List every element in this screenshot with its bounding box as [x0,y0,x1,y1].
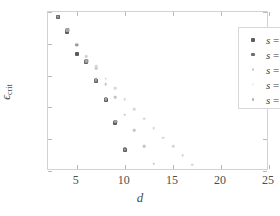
y-tick [48,44,52,45]
x-tick-top [269,12,270,16]
x-tick-top [173,12,174,16]
legend-label: s = 20 [266,79,280,91]
x-tick-label: 25 [262,173,274,188]
data-point [124,113,127,116]
x-tick-label: 15 [166,173,178,188]
data-point [172,145,175,148]
y-axis-title: ϵcrit [0,84,14,100]
legend-item[interactable]: s = 10 [239,47,280,62]
y-tick-right [263,139,267,140]
y-tick-right [263,12,267,13]
y-tick [48,12,52,13]
legend-marker-icon [246,38,260,42]
data-point [143,145,146,148]
data-point [152,163,155,166]
data-point [191,163,194,166]
data-point [152,127,155,130]
legend-item[interactable]: s = 20 [239,77,280,92]
data-point [95,67,98,70]
y-axis-title-subscript: crit [5,84,14,95]
plot-area [48,12,267,169]
data-point [181,154,184,157]
x-tick-top [221,12,222,16]
x-tick-top [125,12,126,16]
y-tick [48,76,52,77]
legend-marker-icon [246,53,260,57]
legend-marker-icon [246,83,260,85]
figure: ϵcrit 00.20.40.60.81 s = 5s = 10s = 15s … [0,0,280,216]
data-point [85,54,88,57]
legend-label: s = 10 [266,49,280,61]
axes-box: s = 5s = 10s = 15s = 20s = 25 [47,11,268,170]
data-point [124,98,127,101]
x-tick [77,165,78,169]
data-point [143,117,146,120]
legend-marker-icon [246,98,260,101]
y-tick-right [263,171,267,172]
x-tick [125,165,126,169]
legend-label: s = 25 [266,94,280,106]
data-point [133,108,136,111]
x-tick-label: 20 [214,173,226,188]
y-tick [48,171,52,172]
legend: s = 5s = 10s = 15s = 20s = 25 [238,27,280,109]
x-tick-top [77,12,78,16]
legend-item[interactable]: s = 25 [239,92,280,107]
data-point [95,65,98,68]
x-tick [221,165,222,169]
y-tick [48,107,52,108]
x-axis-title: d [0,190,280,206]
x-tick [173,165,174,169]
x-tick [269,165,270,169]
legend-label: s = 15 [266,64,280,76]
data-point [104,83,107,86]
data-point [104,77,107,80]
data-point [133,129,136,132]
data-point [162,136,165,139]
y-axis-title-symbol: ϵ [0,95,13,100]
legend-item[interactable]: s = 15 [239,62,280,77]
data-point [114,96,117,99]
data-point [75,52,79,56]
y-tick [48,139,52,140]
legend-item[interactable]: s = 5 [239,32,280,47]
legend-marker-icon [246,68,260,71]
x-tick-label: 5 [73,173,79,188]
x-tick-label: 10 [118,173,130,188]
legend-label: s = 5 [266,34,280,46]
data-point [114,87,117,90]
x-axis-title-symbol: d [137,190,144,205]
